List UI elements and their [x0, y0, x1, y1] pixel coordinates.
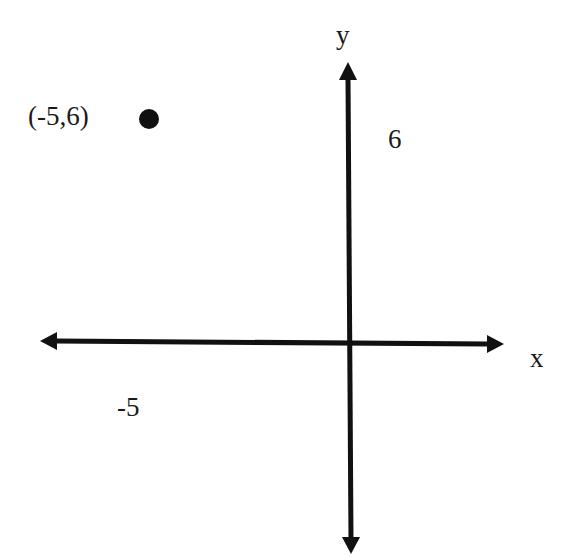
y-axis	[339, 62, 360, 554]
plotted-point	[139, 109, 159, 129]
y-axis-down-arrow-icon	[342, 537, 360, 554]
x-tick-label: -5	[117, 394, 140, 421]
x-axis	[40, 332, 504, 353]
x-axis-left-arrow-icon	[40, 332, 57, 350]
axes-drawing	[0, 0, 578, 556]
y-axis-up-arrow-icon	[339, 62, 357, 80]
point-label: (-5,6)	[28, 103, 89, 130]
x-axis-right-arrow-icon	[487, 335, 504, 353]
coordinate-plane: y x 6 -5 (-5,6)	[0, 0, 578, 556]
y-tick-label: 6	[388, 126, 402, 153]
x-axis-label: x	[530, 345, 544, 372]
y-axis-label: y	[336, 22, 350, 49]
